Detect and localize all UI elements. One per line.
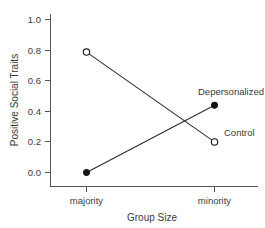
data-point-control-majority (83, 49, 89, 55)
chart-container: 1.0 0.8 0.6 0.4 0.2 0.0 majority minorit… (0, 0, 265, 228)
series-label-control: Control (224, 127, 255, 138)
data-point-control-minority (211, 139, 217, 145)
x-tick-label-majority: majority (70, 195, 104, 206)
y-tick-label-2: 0.4 (28, 106, 41, 117)
x-tick-marks (87, 187, 215, 193)
series-line-control (87, 52, 215, 142)
y-tick-label-4: 0.8 (28, 45, 41, 56)
data-point-depersonalized-majority (83, 169, 89, 175)
y-axis-title: Positive Social Traits (9, 54, 20, 146)
y-tick-label-3: 0.6 (28, 75, 41, 86)
line-chart: 1.0 0.8 0.6 0.4 0.2 0.0 majority minorit… (0, 0, 265, 228)
series-label-depersonalized: Depersonalized (198, 86, 264, 97)
y-tick-marks (45, 20, 51, 173)
y-tick-label-5: 1.0 (28, 14, 41, 25)
x-axis-title: Group Size (127, 212, 177, 223)
y-tick-label-0: 0.0 (28, 167, 41, 178)
series-line-depersonalized (87, 105, 215, 172)
x-tick-label-minority: minority (198, 195, 232, 206)
y-tick-label-1: 0.2 (28, 136, 41, 147)
data-point-depersonalized-minority (211, 102, 217, 108)
